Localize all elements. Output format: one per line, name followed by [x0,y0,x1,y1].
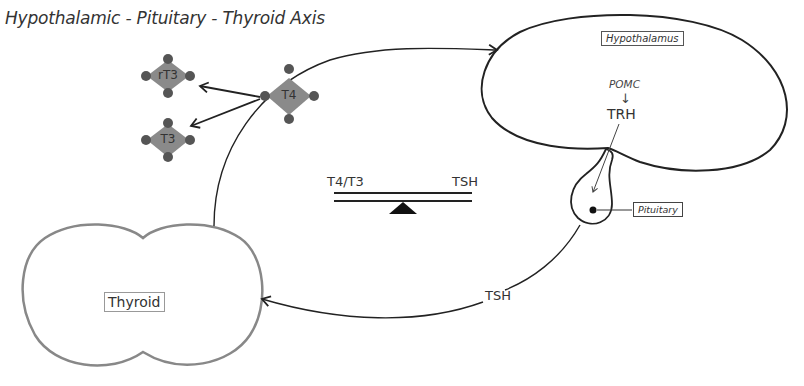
balance-left-label: T4/T3 [327,174,364,189]
thyroid-label: Thyroid [104,292,165,312]
pituitary-label: Pituitary [633,202,683,217]
tsh-label: TSH [485,288,511,303]
axis-diagram [0,0,804,386]
pomc-label: POMC [609,78,640,90]
rt3-label: rT3 [148,68,188,82]
hypothalamus-label: Hypothalamus [601,31,684,46]
feedback-pathway [214,48,497,226]
balance-fulcrum [389,202,417,214]
pituitary-dot [590,207,597,214]
t4-label: T4 [269,88,309,102]
down-arrow-icon: ↓ [620,91,631,106]
trh-label: TRH [607,106,636,122]
t3-label: T3 [148,132,188,146]
balance-right-label: TSH [452,174,478,189]
tsh-pathway [505,225,580,290]
